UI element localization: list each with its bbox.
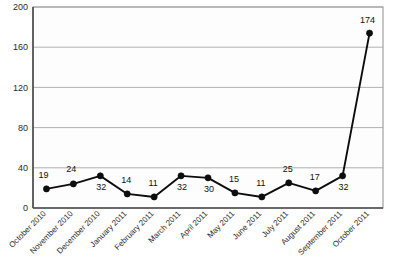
data-point-label: 11 [256,178,265,188]
data-point-marker [124,191,130,197]
data-point-marker [70,181,76,187]
data-point-label: 25 [283,164,293,174]
y-axis-tick-label: 160 [13,42,28,52]
y-axis-tick-label: 80 [18,123,28,133]
data-point-label: 174 [360,15,375,25]
data-point-label: 24 [66,164,76,174]
data-point-label: 32 [96,182,106,192]
data-point-label: 17 [310,172,320,182]
data-point-label: 11 [148,178,157,188]
y-axis-tick-label: 200 [13,2,28,12]
x-axis-tick-label: June 2011 [231,209,264,242]
data-point-marker [366,30,372,36]
data-point-marker [340,173,346,179]
data-point-marker [259,194,265,200]
data-point-marker [313,188,319,194]
y-axis-tick-label: 40 [18,163,28,173]
y-axis-tick-label: 0 [23,203,28,213]
data-point-marker [286,180,292,186]
data-point-label: 32 [339,182,349,192]
x-axis-tick-label: April 2011 [178,209,210,241]
data-point-label: 14 [121,175,131,185]
chart-canvas: 04080120160200 October 2010November 2010… [0,0,393,280]
line-chart: 04080120160200 October 2010November 2010… [0,0,393,280]
x-axis: October 2010November 2010December 2010Ja… [7,209,371,257]
data-point-marker [232,190,238,196]
data-point-label: 30 [204,184,214,194]
y-axis-tick-label: 120 [13,83,28,93]
data-point-marker [178,173,184,179]
data-point-marker [43,186,49,192]
data-point-label: 15 [229,174,239,184]
data-point-label: 32 [177,182,187,192]
data-point-label: 19 [38,170,48,180]
data-point-marker [205,175,211,181]
data-point-marker [151,194,157,200]
data-point-marker [97,173,103,179]
y-axis: 04080120160200 [13,2,28,213]
